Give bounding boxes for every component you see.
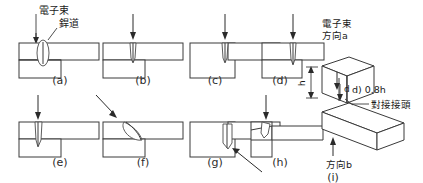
plate-horizontal-e	[19, 122, 99, 139]
subfigure-b: (b)	[103, 14, 183, 87]
note-joint-label: 對接接頭	[371, 99, 411, 110]
beam-arrowhead-b	[130, 32, 136, 40]
caption-d: (d)	[272, 74, 288, 87]
label-beam-direction-a-line1: 電子束	[322, 18, 352, 29]
dim-h-label: h	[297, 80, 307, 86]
direction-b-arrowhead	[330, 137, 336, 145]
caption-c: (c)	[208, 74, 223, 87]
subfigure-e: (e)	[19, 95, 99, 169]
subfigure-a: 電子束 銲道 (a)	[19, 5, 99, 87]
beam-arrowhead-d	[290, 32, 296, 40]
caption-i: (i)	[327, 171, 339, 183]
caption-h: (h)	[272, 156, 288, 169]
beam-arrow-f	[96, 95, 113, 113]
plate-horizontal-b	[103, 43, 183, 60]
plate-vertical-f	[103, 139, 145, 157]
label-beam-direction-a-line2: 方向a	[322, 30, 348, 41]
label-direction-b: 方向b	[326, 159, 352, 170]
caption-a: (a)	[52, 74, 67, 87]
caption-b: (b)	[135, 74, 151, 87]
welding-joint-diagram: 電子束 銲道 (a) (b) (c)	[0, 0, 423, 183]
beam-arrowhead-c	[222, 32, 228, 40]
plate-horizontal-f	[103, 122, 183, 139]
dim-d-label: d	[344, 84, 350, 94]
note-d-value: d) 0.8h	[352, 84, 386, 95]
label-electron-beam: 電子束	[39, 5, 69, 16]
beam-arrowhead-e	[35, 112, 41, 120]
weld-bead-leader-a	[48, 28, 57, 40]
caption-f: (f)	[137, 156, 149, 169]
beam-arrowhead-f	[109, 110, 117, 118]
subfigure-h: (h)	[251, 95, 323, 169]
plate-horizontal-h	[272, 126, 323, 140]
caption-g: (g)	[207, 156, 223, 169]
subfigure-d: (d)	[262, 14, 324, 87]
plate-horizontal-a	[19, 43, 99, 60]
caption-e: (e)	[52, 156, 67, 169]
label-weld-bead: 銲道	[59, 17, 79, 29]
subfigure-f: (f)	[96, 95, 183, 169]
beam-arrowhead-h	[263, 112, 269, 120]
